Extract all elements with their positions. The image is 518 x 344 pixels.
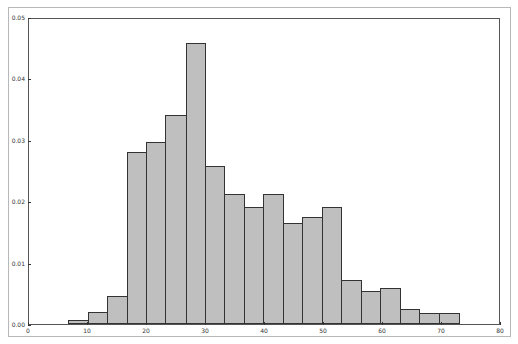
x-tick-label: 20	[136, 327, 156, 334]
x-tick-mark	[146, 322, 147, 325]
x-tick-mark	[205, 322, 206, 325]
y-tick-label: 0.03	[1, 137, 25, 144]
y-tick-mark	[28, 264, 31, 265]
x-tick-mark	[87, 322, 88, 325]
x-tick-label: 60	[372, 327, 392, 334]
y-tick-mark	[28, 141, 31, 142]
histogram-bar	[302, 217, 322, 324]
histogram-bar	[361, 291, 381, 324]
histogram-bar	[224, 194, 244, 324]
y-tick-label: 0.05	[1, 14, 25, 21]
histogram-bar	[205, 166, 225, 324]
x-tick-label: 80	[490, 327, 510, 334]
histogram-bar	[380, 288, 400, 324]
x-tick-mark	[500, 322, 501, 325]
histogram-bar	[165, 115, 186, 324]
x-tick-label: 40	[254, 327, 274, 334]
x-tick-label: 70	[431, 327, 451, 334]
histogram-bar	[68, 320, 88, 324]
histogram-bar	[322, 207, 342, 324]
histogram-bar	[146, 142, 166, 324]
histogram-bar	[439, 313, 459, 324]
y-tick-label: 0.02	[1, 198, 25, 205]
x-tick-label: 10	[77, 327, 97, 334]
histogram-bar	[263, 194, 283, 324]
x-tick-mark	[28, 322, 29, 325]
histogram-bar	[341, 280, 361, 324]
y-tick-mark	[28, 202, 31, 203]
x-tick-mark	[382, 322, 383, 325]
histogram-bar	[244, 207, 264, 324]
x-tick-mark	[441, 322, 442, 325]
plot-area	[28, 18, 500, 325]
histogram-bar	[186, 43, 206, 324]
x-tick-label: 50	[313, 327, 333, 334]
histogram-bar	[88, 312, 108, 324]
y-tick-mark	[28, 325, 31, 326]
histogram-bar	[107, 296, 127, 324]
x-tick-mark	[264, 322, 265, 325]
histogram-bar	[283, 223, 303, 324]
histogram-bar	[400, 309, 420, 324]
y-tick-label: 0.01	[1, 260, 25, 267]
x-tick-mark	[323, 322, 324, 325]
histogram-bar	[127, 152, 147, 324]
x-tick-label: 30	[195, 327, 215, 334]
histogram-bar	[419, 313, 440, 324]
x-tick-label: 0	[18, 327, 38, 334]
y-tick-label: 0.04	[1, 75, 25, 82]
y-tick-mark	[28, 18, 31, 19]
y-tick-mark	[28, 79, 31, 80]
